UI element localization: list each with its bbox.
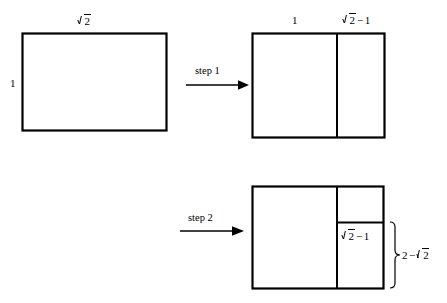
- start-height-label: 1: [10, 78, 16, 89]
- step1-right-part-label: 2−1: [343, 13, 370, 27]
- step2-arrow: [180, 226, 244, 236]
- start-rectangle-shape: [23, 34, 167, 131]
- figure-lines: [0, 0, 447, 303]
- geometric-figure: 2 1 step 1 1 2−1 step 2 2−1 2−2: [0, 0, 447, 303]
- step1-rectangle-shape: [253, 34, 385, 138]
- step1-left-part-label: 1: [292, 15, 298, 26]
- step2-inner-label: 2−1: [342, 229, 369, 243]
- step1-arrow: [186, 80, 249, 90]
- brace-right: [390, 222, 400, 288]
- step2-brace-label: 2−2: [402, 248, 429, 262]
- start-width-label: 2: [78, 14, 91, 28]
- step2-label: step 2: [188, 213, 213, 224]
- step1-label: step 1: [195, 66, 220, 77]
